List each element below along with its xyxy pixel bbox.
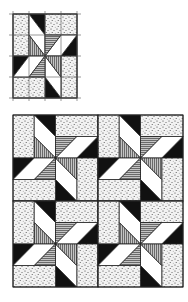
speckled-rectangle	[13, 180, 56, 202]
speckled-rectangle	[56, 115, 99, 137]
speckled-rectangle	[13, 201, 34, 244]
speckled-rectangle	[13, 266, 56, 288]
speckled-rectangle	[13, 115, 34, 158]
speckled-rectangle	[98, 115, 119, 158]
single-block-diagram	[8, 10, 82, 104]
quilt-layout-diagram	[12, 114, 184, 288]
speckled-rectangle	[98, 266, 141, 288]
speckled-rectangle	[162, 244, 183, 287]
speckled-rectangle	[98, 180, 141, 202]
speckled-rectangle	[162, 158, 183, 201]
quilt-layout-2x2	[12, 114, 184, 288]
speckled-rectangle	[56, 201, 99, 223]
speckled-rectangle	[77, 244, 98, 287]
speckled-rectangle	[141, 115, 184, 137]
single-quilt-block	[8, 10, 82, 104]
speckled-rectangle	[77, 158, 98, 201]
speckled-rectangle	[98, 201, 119, 244]
speckled-rectangle	[141, 201, 184, 223]
